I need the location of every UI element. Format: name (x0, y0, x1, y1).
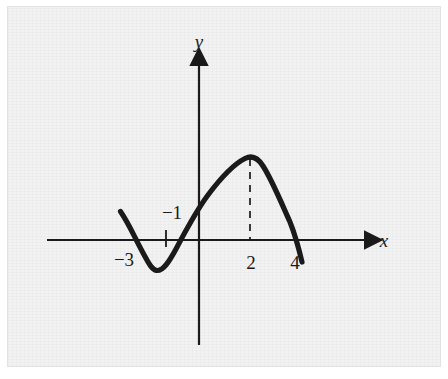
function-curve (121, 157, 303, 270)
figure-root: y x −3 −1 2 4 (0, 0, 448, 379)
x-axis-label: x (379, 230, 389, 251)
tick-label-4: 4 (290, 252, 300, 273)
tick-label-neg1: −1 (162, 202, 182, 223)
tick-label-2: 2 (246, 252, 256, 273)
graph-canvas: y x −3 −1 2 4 (0, 0, 448, 379)
y-axis-label: y (193, 31, 204, 52)
tick-label-neg3: −3 (114, 249, 134, 270)
